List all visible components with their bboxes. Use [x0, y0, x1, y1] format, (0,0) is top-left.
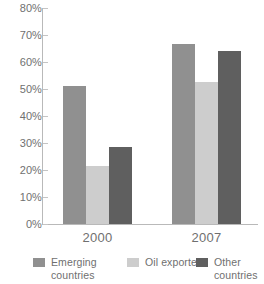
legend-item-label: Other countries	[214, 256, 258, 281]
legend-item: Other countries	[196, 256, 258, 281]
x-axis-line	[42, 224, 258, 225]
legend-item: Emerging countries	[33, 256, 97, 281]
y-axis-tick-label: 20%	[6, 165, 42, 176]
bar	[172, 44, 195, 224]
bar	[109, 147, 132, 224]
x-axis-tick-label: 2000	[68, 231, 128, 245]
plot-area	[42, 8, 258, 224]
bar	[63, 86, 86, 224]
x-axis-tick-label: 2007	[177, 231, 237, 245]
y-axis-tick-label: 80%	[6, 3, 42, 14]
y-axis-tick-label: 0%	[6, 219, 42, 230]
bar	[218, 51, 241, 224]
chart-legend: Emerging countriesOil exportersOther cou…	[0, 256, 264, 284]
y-axis-tick-label: 50%	[6, 84, 42, 95]
y-axis-tick	[43, 224, 48, 225]
y-axis-tick-label: 10%	[6, 192, 42, 203]
y-axis-tick-label: 30%	[6, 138, 42, 149]
legend-item: Oil exporters	[127, 256, 206, 269]
bar-chart: 0%10%20%30%40%50%60%70%80% 20002007 Emer…	[0, 0, 264, 284]
legend-swatch-icon	[127, 258, 139, 267]
y-axis-tick-label: 60%	[6, 57, 42, 68]
bar	[86, 166, 109, 224]
y-axis-tick-label: 70%	[6, 30, 42, 41]
bar	[195, 82, 218, 224]
legend-swatch-icon	[33, 258, 45, 267]
y-axis-tick-label: 40%	[6, 111, 42, 122]
legend-swatch-icon	[196, 258, 208, 267]
legend-item-label: Emerging countries	[51, 256, 97, 281]
